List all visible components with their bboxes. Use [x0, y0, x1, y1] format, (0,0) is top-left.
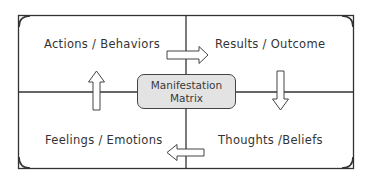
center-title-line2: Matrix — [170, 92, 203, 105]
arrow-right-icon — [167, 47, 208, 64]
arrow-down-icon — [273, 71, 289, 110]
center-title-line1: Manifestation — [151, 79, 222, 92]
corner-top-right — [342, 16, 353, 27]
quadrant-bottom-left-label: Feelings / Emotions — [45, 133, 163, 147]
quadrant-top-right-label: Results / Outcome — [215, 37, 325, 51]
corner-bottom-left — [19, 157, 30, 168]
arrow-up-icon — [89, 71, 105, 110]
center-box: Manifestation Matrix — [137, 74, 236, 109]
quadrant-bottom-right-label: Thoughts /Beliefs — [218, 133, 323, 147]
quadrant-top-left-label: Actions / Behaviors — [44, 37, 160, 51]
corner-bottom-right — [342, 157, 353, 168]
corner-top-left — [19, 16, 30, 27]
